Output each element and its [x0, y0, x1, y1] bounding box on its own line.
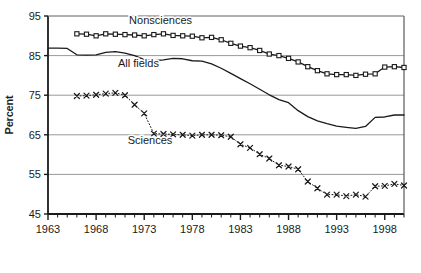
x-tick-label-1988: 1988	[276, 223, 300, 235]
data-point-marker	[190, 34, 194, 38]
data-point-marker	[383, 65, 387, 69]
chart-container: 4555657585951963196819731978198319881993…	[0, 0, 421, 273]
data-point-marker	[152, 33, 156, 37]
data-point-marker	[315, 186, 320, 191]
data-point-marker	[286, 56, 290, 60]
data-point-marker	[248, 46, 252, 50]
data-point-marker	[267, 52, 271, 56]
y-tick-label-85: 85	[29, 50, 41, 62]
data-point-marker	[229, 41, 233, 45]
x-axis-ticks: 19631968197319781983198819931998	[36, 214, 404, 235]
data-point-marker	[373, 72, 377, 76]
data-point-marker	[315, 69, 319, 73]
data-point-marker	[113, 32, 117, 36]
data-point-marker	[238, 142, 243, 147]
data-point-marker	[238, 44, 242, 48]
x-tick-label-1983: 1983	[228, 223, 252, 235]
x-tick-label-1968: 1968	[84, 223, 108, 235]
data-point-marker	[142, 34, 146, 38]
x-tick-label-1993: 1993	[324, 223, 348, 235]
x-tick-label-1998: 1998	[373, 223, 397, 235]
data-point-marker	[296, 60, 300, 64]
x-tick-label-1978: 1978	[180, 223, 204, 235]
data-point-marker	[257, 152, 262, 157]
series-all-fields	[48, 48, 404, 128]
data-point-marker	[181, 34, 185, 38]
data-point-marker	[344, 73, 348, 77]
series-label-all-fields: All fields	[118, 57, 159, 69]
x-tick-label-1973: 1973	[132, 223, 156, 235]
series-line-0	[77, 34, 404, 76]
data-point-marker	[132, 102, 137, 107]
series-sciences	[74, 90, 406, 199]
line-chart: 4555657585951963196819731978198319881993…	[0, 0, 421, 273]
data-point-marker	[392, 181, 397, 186]
gridlines	[48, 16, 404, 174]
series-nonsciences	[75, 32, 406, 78]
data-point-marker	[84, 32, 88, 36]
y-tick-label-45: 45	[29, 208, 41, 220]
data-point-marker	[373, 184, 378, 189]
data-point-marker	[335, 73, 339, 77]
data-point-marker	[104, 32, 108, 36]
data-point-marker	[74, 93, 79, 98]
data-point-marker	[392, 65, 396, 69]
data-point-marker	[219, 38, 223, 42]
data-point-marker	[286, 164, 291, 169]
data-point-marker	[123, 33, 127, 37]
data-point-marker	[132, 33, 136, 37]
series-line-1	[48, 48, 404, 128]
series-label-nonsciences: Nonsciences	[129, 14, 192, 26]
series-label-sciences: Sciences	[128, 134, 173, 146]
data-point-marker	[305, 179, 310, 184]
data-point-marker	[248, 145, 253, 150]
data-point-marker	[402, 65, 406, 69]
data-point-marker	[277, 54, 281, 58]
data-point-marker	[276, 163, 281, 168]
data-point-marker	[75, 32, 79, 36]
axes	[48, 16, 404, 214]
y-tick-label-95: 95	[29, 10, 41, 22]
data-point-marker	[267, 156, 272, 161]
data-point-marker	[354, 73, 358, 77]
y-tick-label-65: 65	[29, 129, 41, 141]
x-tick-label-1963: 1963	[36, 223, 60, 235]
y-tick-label-55: 55	[29, 168, 41, 180]
data-point-marker	[296, 167, 301, 172]
data-point-marker	[94, 34, 98, 38]
data-point-marker	[142, 111, 147, 116]
y-tick-label-75: 75	[29, 89, 41, 101]
data-point-marker	[113, 90, 118, 95]
data-point-marker	[382, 183, 387, 188]
data-point-marker	[200, 36, 204, 40]
y-axis-title: Percent	[3, 95, 15, 134]
data-point-marker	[171, 33, 175, 37]
data-point-marker	[258, 48, 262, 52]
y-axis-ticks: 455565758595	[29, 10, 48, 220]
data-point-marker	[325, 72, 329, 76]
data-point-marker	[161, 32, 165, 36]
data-point-marker	[363, 72, 367, 76]
data-point-marker	[209, 35, 213, 39]
data-point-marker	[306, 65, 310, 69]
